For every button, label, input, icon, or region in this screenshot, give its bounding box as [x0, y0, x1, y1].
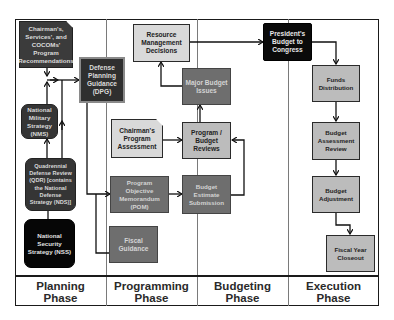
phase-label-budgeting: Budgeting Phase: [197, 279, 288, 305]
fiscal-year-closeout-box: Fiscal Year Closeout: [326, 235, 375, 272]
node-label: Program / Budget Reviews: [185, 129, 228, 153]
node-label: Fiscal Guidance: [112, 237, 155, 253]
fiscal-guidance-box: Fiscal Guidance: [109, 226, 158, 263]
node-label: Quadrennial Defense Review (QDR) [contai…: [28, 163, 73, 206]
phase-subtitle: Phase: [135, 292, 169, 305]
defense-planning-guidance-box: Defense Planning Guidance (DPG): [79, 57, 125, 103]
national-military-strategy-box: National Military Strategy (NMS): [21, 104, 58, 139]
program-objective-memorandum-box: Program Objective Memorandum (POM): [110, 176, 169, 213]
resource-management-decisions-box: Resource Management Decisions: [133, 24, 190, 62]
phase-title: Planning: [36, 280, 85, 293]
phase-title: Execution: [306, 280, 361, 293]
phase-subtitle: Phase: [44, 292, 78, 305]
funds-distribution-box: Funds Distribution: [312, 65, 360, 102]
phase-label-programming: Programming Phase: [106, 279, 197, 305]
node-label: Budget Estimate Submission: [185, 183, 228, 207]
phase-subtitle: Phase: [317, 292, 351, 305]
phase-title: Programming: [114, 280, 189, 293]
node-label: Chairman's Program Assessment: [114, 127, 160, 151]
presidents-budget-box: President's Budget to Congress: [263, 23, 312, 61]
node-label: Chairman's, Services', and COCOMs' Progr…: [18, 25, 73, 65]
phase-label-execution: Execution Phase: [288, 279, 379, 305]
national-security-strategy-box: National Security Strategy (NSS): [24, 219, 75, 268]
node-label: Major Budget Issues: [185, 79, 228, 95]
node-label: Funds Distribution: [315, 76, 357, 92]
phase-title: Budgeting: [214, 280, 271, 293]
budget-estimate-submission-box: Budget Estimate Submission: [182, 175, 231, 214]
phase-label-planning: Planning Phase: [15, 279, 106, 305]
node-label: National Security Strategy (NSS): [27, 232, 72, 256]
node-label: National Military Strategy (NMS): [24, 106, 55, 138]
node-label: Resource Management Decisions: [136, 31, 187, 55]
chairmans-services-cocoms-recommendations-box: Chairman's, Services', and COCOMs' Progr…: [19, 21, 73, 68]
node-label: Budget Adjustment: [315, 187, 357, 203]
budget-adjustment-box: Budget Adjustment: [312, 176, 360, 213]
quadrennial-defense-review-box: Quadrennial Defense Review (QDR) [contai…: [25, 158, 76, 211]
chairmans-program-assessment-box: Chairman's Program Assessment: [111, 119, 163, 158]
node-label: Program Objective Memorandum (POM): [113, 179, 166, 211]
program-budget-reviews-box: Program / Budget Reviews: [182, 122, 231, 159]
node-label: President's Budget to Congress: [266, 30, 309, 54]
node-label: Defense Planning Guidance (DPG): [83, 64, 121, 96]
node-label: Budget Assessment Review: [315, 129, 357, 153]
phase-subtitle: Phase: [226, 292, 260, 305]
budget-assessment-review-box: Budget Assessment Review: [312, 122, 360, 160]
major-budget-issues-box: Major Budget Issues: [182, 68, 231, 105]
node-label: Fiscal Year Closeout: [329, 246, 372, 262]
